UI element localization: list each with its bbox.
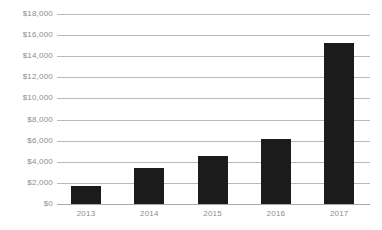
bar-2017: [324, 43, 354, 205]
x-axis-tick-label-2016: 2016: [246, 209, 306, 218]
bar-2014: [134, 168, 164, 204]
bar-2015: [198, 156, 228, 204]
x-axis-tick-label-2015: 2015: [183, 209, 243, 218]
x-axis-tick-label-2013: 2013: [56, 209, 116, 218]
bar-2016: [261, 139, 291, 204]
x-axis-tick-label-2014: 2014: [119, 209, 179, 218]
bar-2013: [71, 186, 101, 204]
x-axis-tick-label-2017: 2017: [309, 209, 369, 218]
bar-chart: $0$2,000$4,000$6,000$8,000$10,000$12,000…: [0, 0, 382, 230]
plot-area: [0, 0, 382, 230]
